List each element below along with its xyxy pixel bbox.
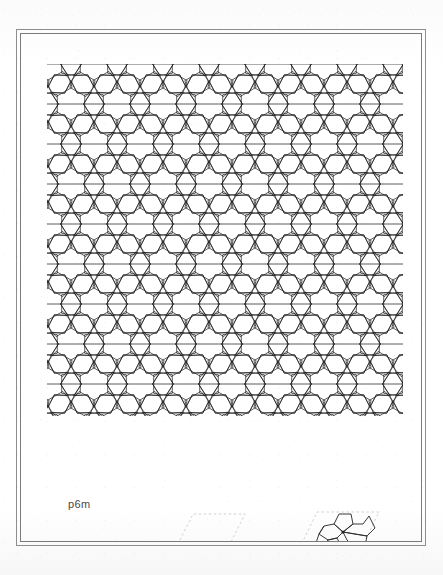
pattern-path (21, 34, 421, 137)
pattern-linework (21, 34, 421, 537)
motif-linework (299, 514, 375, 541)
pattern-path (21, 391, 421, 496)
pattern-path (21, 151, 421, 256)
unit-cell-rhombus (171, 514, 245, 541)
pattern-path (21, 271, 421, 376)
motif-rhombus (293, 512, 379, 541)
motif-diagram (279, 502, 389, 541)
plate-content: p6m (21, 34, 421, 541)
group-label-p6m: p6m (68, 498, 91, 510)
unit-cell-diagram (149, 504, 253, 541)
page-root: p6m (0, 0, 443, 575)
pattern-path (21, 311, 421, 416)
pattern-path (21, 34, 421, 97)
tiling-pattern (21, 34, 421, 541)
